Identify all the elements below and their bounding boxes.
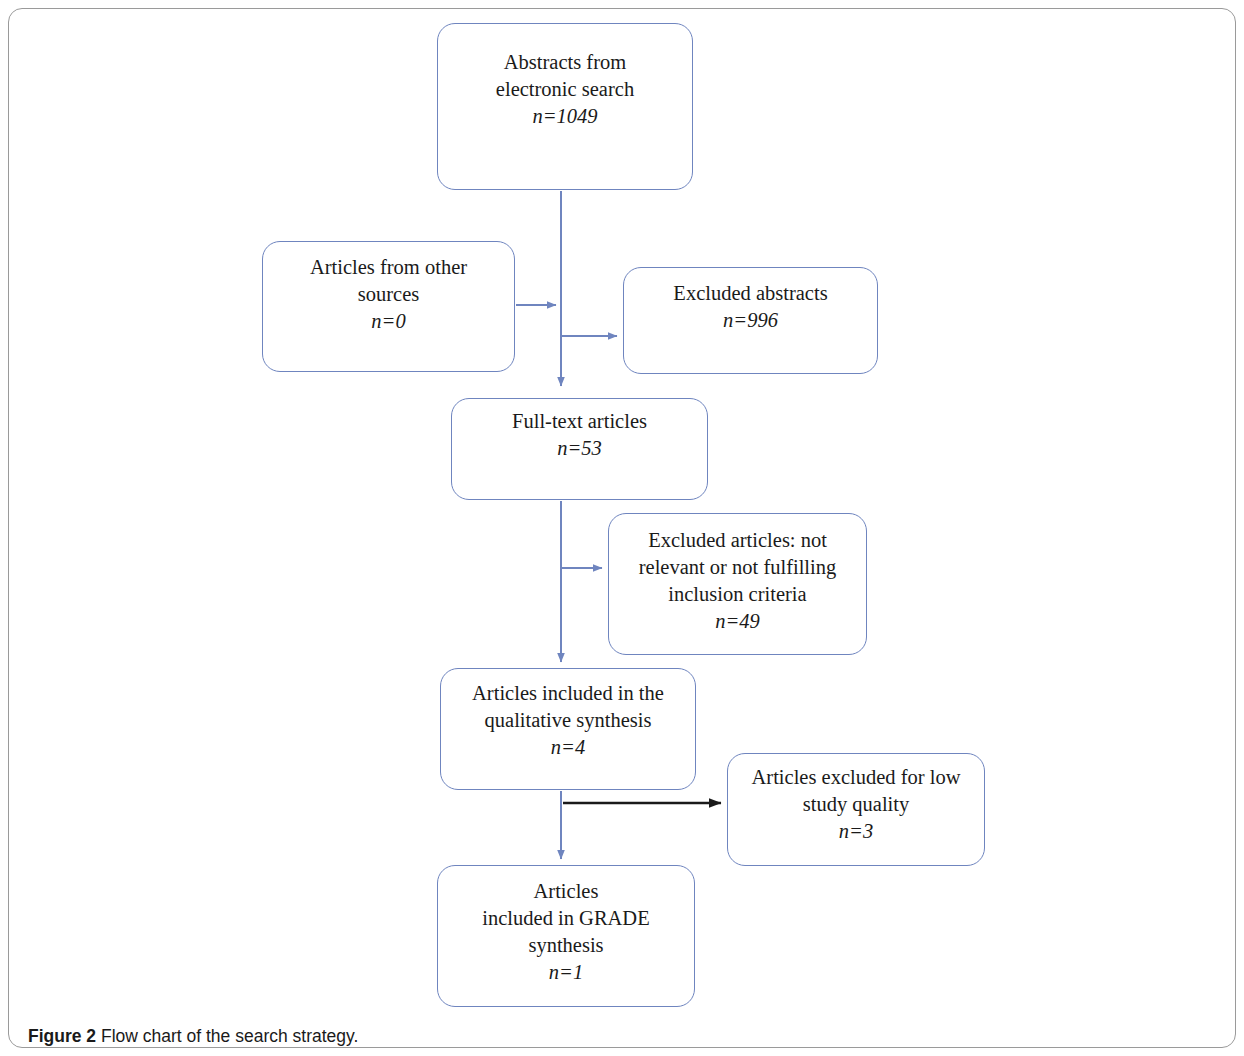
node-count: n=0 bbox=[263, 308, 514, 335]
node-label: Full-text articles bbox=[452, 408, 707, 435]
node-articles-from-other-sources[interactable]: Articles from other sources n=0 bbox=[262, 241, 515, 372]
node-articles-included-grade-synthesis[interactable]: Articles included in GRADE synthesis n=1 bbox=[437, 865, 695, 1007]
node-count: n=3 bbox=[728, 818, 984, 845]
node-abstracts-from-electronic-search[interactable]: Abstracts from electronic search n=1049 bbox=[437, 23, 693, 190]
figure-caption: Figure 2 Flow chart of the search strate… bbox=[28, 1026, 358, 1047]
node-label: Articles excluded for low study quality bbox=[728, 764, 984, 818]
figure-page: Abstracts from electronic search n=1049 … bbox=[0, 0, 1244, 1056]
node-excluded-articles-not-relevant[interactable]: Excluded articles: not relevant or not f… bbox=[608, 513, 867, 655]
node-excluded-abstracts[interactable]: Excluded abstracts n=996 bbox=[623, 267, 878, 374]
node-label: Articles included in the qualitative syn… bbox=[441, 680, 695, 734]
node-count: n=996 bbox=[624, 307, 877, 334]
node-count: n=1049 bbox=[438, 103, 692, 130]
node-label: Excluded articles: not relevant or not f… bbox=[609, 527, 866, 608]
node-full-text-articles[interactable]: Full-text articles n=53 bbox=[451, 398, 708, 500]
node-label: Articles included in GRADE synthesis bbox=[438, 878, 694, 959]
node-label: Articles from other sources bbox=[263, 254, 514, 308]
node-articles-excluded-low-study-quality[interactable]: Articles excluded for low study quality … bbox=[727, 753, 985, 866]
node-count: n=1 bbox=[438, 959, 694, 986]
figure-caption-label: Figure 2 bbox=[28, 1026, 96, 1046]
node-count: n=53 bbox=[452, 435, 707, 462]
figure-caption-text: Flow chart of the search strategy. bbox=[101, 1026, 358, 1046]
node-label: Excluded abstracts bbox=[624, 280, 877, 307]
node-articles-included-qualitative-synthesis[interactable]: Articles included in the qualitative syn… bbox=[440, 668, 696, 790]
node-count: n=4 bbox=[441, 734, 695, 761]
node-count: n=49 bbox=[609, 608, 866, 635]
node-label: Abstracts from electronic search bbox=[438, 49, 692, 103]
